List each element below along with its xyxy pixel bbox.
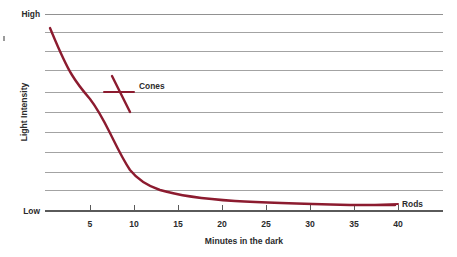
dark-adaptation-chart: High Low 5 10 15 20 25 30 35 40 Minutes … xyxy=(0,0,457,257)
scan-artifact-speck xyxy=(3,36,5,41)
x-tick-label: 35 xyxy=(349,219,359,229)
x-tick-label: 40 xyxy=(393,219,403,229)
rods-label: Rods xyxy=(402,199,423,209)
x-tick-label: 20 xyxy=(217,219,227,229)
x-tick-label: 15 xyxy=(173,219,183,229)
y-axis-low-label: Low xyxy=(23,206,40,216)
y-axis-title: Light Intensity xyxy=(19,82,29,141)
x-axis-title: Minutes in the dark xyxy=(205,236,284,246)
x-tick-label: 30 xyxy=(305,219,315,229)
cones-label: Cones xyxy=(139,81,165,91)
rods-pointer-line xyxy=(375,204,398,205)
x-tick-label: 25 xyxy=(261,219,271,229)
y-axis-high-label: High xyxy=(21,9,40,19)
chart-background xyxy=(0,0,457,257)
x-tick-label: 5 xyxy=(88,219,93,229)
x-tick-label: 10 xyxy=(129,219,139,229)
